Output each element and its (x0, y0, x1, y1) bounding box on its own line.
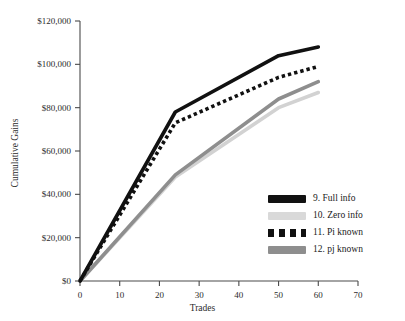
x-axis-title: Trades (0, 303, 405, 313)
x-axis-ticks (80, 281, 358, 286)
chart-legend: 9. Full info10. Zero info11. Pi known12.… (268, 190, 400, 258)
legend-swatch-icon (268, 212, 306, 220)
y-axis-tick-label: $20,000 (0, 233, 71, 243)
legend-item: 12. pj known (268, 241, 400, 258)
x-axis-tick-label: 0 (78, 290, 83, 300)
legend-item-label: 9. Full info (313, 194, 356, 204)
y-axis-ticks (75, 21, 80, 281)
y-axis-title: Cumulative Gains (10, 93, 20, 213)
x-axis-tick-label: 20 (155, 290, 164, 300)
legend-item: 11. Pi known (268, 224, 400, 241)
legend-item-label: 12. pj known (313, 245, 363, 255)
legend-swatch-icon (268, 246, 306, 254)
x-axis-tick-label: 50 (274, 290, 283, 300)
y-axis-tick-label: $0 (0, 276, 71, 286)
legend-swatch-icon (268, 195, 306, 203)
x-axis-tick-label: 40 (234, 290, 243, 300)
chart-plot-area (0, 0, 405, 321)
legend-swatch-icon (268, 229, 306, 237)
chart-container: $0$20,000$40,000$60,000$80,000$100,000$1… (0, 0, 405, 321)
legend-item-label: 10. Zero info (313, 211, 363, 221)
x-axis-tick-label: 70 (354, 290, 363, 300)
y-axis-tick-label: $100,000 (0, 59, 71, 69)
y-axis-tick-label: $120,000 (0, 16, 71, 26)
legend-item: 9. Full info (268, 190, 400, 207)
x-axis-tick-label: 30 (195, 290, 204, 300)
legend-item-label: 11. Pi known (313, 228, 363, 238)
legend-item: 10. Zero info (268, 207, 400, 224)
x-axis-tick-label: 60 (314, 290, 323, 300)
x-axis-tick-label: 10 (115, 290, 124, 300)
